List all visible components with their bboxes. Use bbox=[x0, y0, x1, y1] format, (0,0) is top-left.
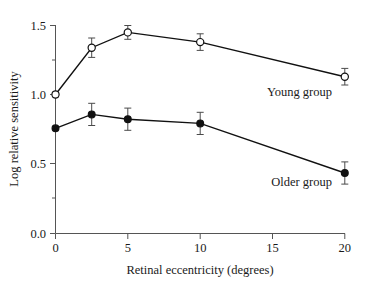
line-chart-plot: 1.5 1.0 0.5 0.0 0 5 10 15 20 Retinal ecc… bbox=[0, 0, 367, 286]
chart-figure: 1.5 1.0 0.5 0.0 0 5 10 15 20 Retinal ecc… bbox=[0, 0, 367, 286]
y-tick-label-0.0: 0.0 bbox=[30, 227, 46, 241]
y-tick-label-1.5: 1.5 bbox=[30, 19, 46, 33]
x-axis-ticks bbox=[56, 234, 345, 240]
data-point-older-10 bbox=[197, 120, 204, 127]
y-axis-title: Log relative sensitivity bbox=[7, 71, 21, 187]
x-tick-label-20: 20 bbox=[339, 241, 352, 255]
older-group-markers bbox=[52, 111, 348, 176]
data-point-young-0 bbox=[52, 91, 59, 98]
series-older-group: Older group bbox=[52, 103, 348, 189]
data-point-young-5 bbox=[124, 29, 131, 36]
x-tick-label-0: 0 bbox=[52, 241, 58, 255]
data-point-young-10 bbox=[197, 39, 204, 46]
older-group-label: Older group bbox=[271, 175, 332, 189]
data-point-older-20 bbox=[341, 170, 348, 177]
data-point-young-20 bbox=[341, 73, 348, 80]
series-young-group: Young group bbox=[52, 26, 349, 100]
y-axis-tick-labels: 1.5 1.0 0.5 0.0 bbox=[30, 19, 46, 241]
x-axis-tick-labels: 0 5 10 15 20 bbox=[52, 241, 351, 255]
data-point-older-2.5 bbox=[88, 111, 95, 118]
data-point-young-2.5 bbox=[88, 44, 95, 51]
x-tick-label-10: 10 bbox=[194, 241, 207, 255]
x-tick-label-15: 15 bbox=[266, 241, 279, 255]
young-group-label: Young group bbox=[267, 85, 332, 99]
y-tick-label-0.5: 0.5 bbox=[30, 157, 46, 171]
y-tick-label-1.0: 1.0 bbox=[30, 88, 46, 102]
x-tick-label-5: 5 bbox=[125, 241, 131, 255]
data-point-older-0 bbox=[52, 125, 59, 132]
x-axis-title: Retinal eccentricity (degrees) bbox=[126, 263, 273, 277]
data-point-older-5 bbox=[124, 116, 131, 123]
